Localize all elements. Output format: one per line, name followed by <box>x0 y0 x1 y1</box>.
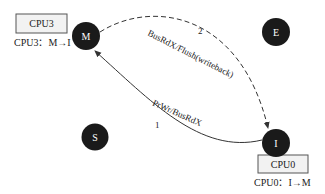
node-i-label: I <box>274 138 277 149</box>
edge-label-busrdx-flush: BusRdX/Flush(writeback) <box>146 28 235 80</box>
edge-prwr-busrdx <box>95 51 262 143</box>
cpu3-box-label: CPU3 <box>29 18 53 29</box>
edge-step-2: 2 <box>198 26 203 36</box>
node-i: I <box>262 129 290 157</box>
node-s: S <box>82 124 109 151</box>
node-e-label: E <box>273 27 279 38</box>
cpu0-box-label: CPU0 <box>271 159 295 170</box>
node-s-label: S <box>92 132 98 143</box>
node-m-label: M <box>82 31 91 42</box>
state-diagram: BusRdX/Flush(writeback) 2 PrWr/BusRdX 1 … <box>0 0 325 194</box>
node-m: M <box>72 22 100 50</box>
node-e: E <box>262 18 290 46</box>
cpu3-caption: CPU3：M→I <box>14 37 71 48</box>
edge-step-1: 1 <box>155 120 160 130</box>
cpu0-caption: CPU0：I→M <box>254 177 311 188</box>
